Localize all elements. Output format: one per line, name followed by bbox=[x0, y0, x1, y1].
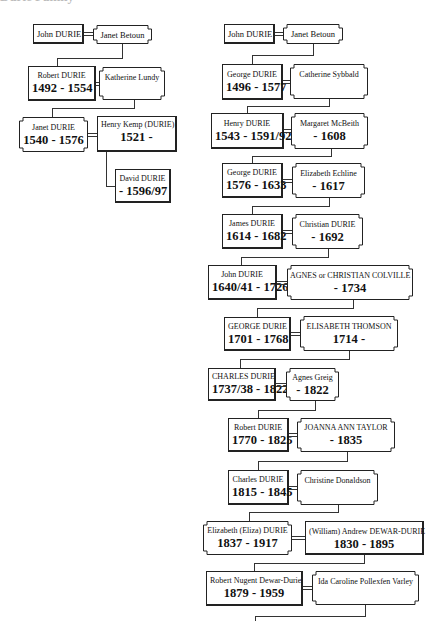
person-box-elizabeth-echline[interactable]: Elizabeth Echline- 1617 bbox=[292, 163, 365, 198]
person-box-agnes-greig[interactable]: Agnes Greig- 1822 bbox=[286, 368, 339, 401]
descent-line bbox=[249, 512, 250, 521]
person-box-elisabeth-thomson[interactable]: ELISABETH THOMSON1714 - bbox=[300, 316, 398, 351]
descent-line bbox=[252, 156, 332, 157]
person-box-catherine-sybbald[interactable]: Catherine Sybbald bbox=[290, 64, 368, 99]
person-name: Henry DURIE bbox=[215, 119, 279, 129]
marriage-connector bbox=[84, 32, 93, 36]
descent-line bbox=[331, 149, 332, 156]
descent-line bbox=[365, 605, 366, 616]
descent-line bbox=[240, 359, 241, 368]
person-name: JOANNA ANN TAYLOR bbox=[300, 423, 392, 433]
person-dates: - 1835 bbox=[300, 433, 392, 447]
descent-line bbox=[315, 401, 316, 410]
marriage-connector bbox=[291, 332, 300, 336]
descent-line bbox=[329, 198, 330, 206]
descent-line bbox=[241, 257, 329, 258]
person-box-george-durie-1701[interactable]: GEORGE DURIE1701 - 1768 bbox=[224, 317, 291, 351]
person-box-charles-durie-1737[interactable]: CHARLES DURIE1737/38 - 1822 bbox=[208, 368, 276, 401]
person-name: Agnes Greig bbox=[289, 373, 336, 383]
descent-line bbox=[252, 55, 253, 64]
person-dates: 1640/41 - 1726 bbox=[212, 280, 272, 294]
person-name: (William) Andrew DEWAR-DURIE bbox=[309, 527, 419, 537]
person-name: James DURIE bbox=[226, 219, 278, 229]
marriage-connector bbox=[283, 80, 290, 84]
descent-line bbox=[249, 512, 339, 513]
person-box-christine-donaldson[interactable]: Christine Donaldson bbox=[297, 470, 378, 505]
person-box-janet-durie-1540[interactable]: Janet DURIE1540 - 1576 bbox=[19, 117, 88, 152]
person-name: Margaret McBeith bbox=[294, 119, 365, 129]
person-dates: 1614 - 1682 bbox=[226, 229, 278, 243]
person-name: Robert DURIE bbox=[232, 423, 284, 433]
person-box-david-durie[interactable]: David DURIE- 1596/97 bbox=[115, 169, 171, 203]
person-dates: 1830 - 1895 bbox=[309, 537, 419, 551]
person-box-george-durie-1496[interactable]: George DURIE1496 - 1577 bbox=[222, 64, 283, 100]
person-name: Catherine Sybbald bbox=[293, 70, 365, 80]
person-box-george-durie-1576[interactable]: George DURIE1576 - 1633 bbox=[222, 163, 283, 198]
person-box-john-durie-right[interactable]: John DURIE bbox=[224, 24, 275, 44]
person-box-ida-caroline-pollexfen-varley[interactable]: Ida Caroline Pollexfen Varley bbox=[312, 571, 419, 605]
person-name: Elizabeth (Eliza) DURIE bbox=[206, 526, 289, 536]
person-box-janet-betoun-left[interactable]: Janet Betoun bbox=[93, 25, 152, 44]
descent-line bbox=[254, 563, 255, 571]
person-box-katherine-lundy[interactable]: Katherine Lundy bbox=[99, 67, 165, 100]
person-box-robert-durie-1492[interactable]: Robert DURIE1492 - 1554 bbox=[28, 66, 96, 101]
person-box-henry-kemp[interactable]: Henry Kemp (DURIE)1521 - bbox=[97, 116, 177, 152]
person-dates: - 1596/97 bbox=[119, 184, 166, 198]
person-name: Charles DURIE bbox=[232, 475, 284, 485]
person-box-james-durie[interactable]: James DURIE1614 - 1682 bbox=[222, 214, 283, 249]
person-box-robert-nugent-dewar-durie[interactable]: Robert Nugent Dewar-Durie1879 - 1959 bbox=[206, 571, 303, 606]
descent-line bbox=[364, 555, 365, 563]
marriage-connector bbox=[284, 129, 291, 133]
marriage-connector bbox=[283, 179, 292, 183]
person-name: Christine Donaldson bbox=[300, 476, 375, 486]
marriage-connector bbox=[289, 486, 297, 490]
person-box-henry-durie-1543[interactable]: Henry DURIE1543 - 1591/92 bbox=[211, 113, 284, 149]
descent-line bbox=[122, 44, 123, 58]
descent-line bbox=[258, 461, 348, 462]
person-name: ELISABETH THOMSON bbox=[303, 322, 395, 332]
descent-line bbox=[247, 106, 330, 107]
person-name: Robert DURIE bbox=[32, 71, 91, 81]
person-name: Christian DURIE bbox=[295, 220, 360, 230]
person-name: Henry Kemp (DURIE) bbox=[101, 120, 172, 130]
person-dates: - 1608 bbox=[294, 129, 365, 143]
descent-line bbox=[257, 308, 258, 317]
marriage-connector bbox=[292, 536, 305, 540]
person-name: David DURIE bbox=[119, 174, 166, 184]
descent-line bbox=[252, 206, 330, 207]
person-box-elizabeth-eliza-durie[interactable]: Elizabeth (Eliza) DURIE1837 - 1917 bbox=[203, 521, 292, 555]
person-dates: 1521 - bbox=[101, 130, 172, 144]
person-box-agnes-colville[interactable]: AGNES or CHRISTIAN COLVILLE- 1734 bbox=[287, 265, 413, 300]
person-box-christian-durie[interactable]: Christian DURIE- 1692 bbox=[292, 214, 363, 249]
person-dates: 1879 - 1959 bbox=[210, 586, 298, 600]
person-dates: 1540 - 1576 bbox=[22, 133, 85, 147]
person-dates: - 1692 bbox=[295, 230, 360, 244]
person-dates: - 1822 bbox=[289, 383, 336, 397]
descent-line bbox=[349, 351, 350, 359]
person-dates: - 1734 bbox=[290, 281, 410, 295]
descent-line bbox=[247, 106, 248, 113]
descent-line bbox=[258, 410, 316, 411]
person-box-william-andrew-dewar-durie[interactable]: (William) Andrew DEWAR-DURIE1830 - 1895 bbox=[305, 521, 424, 555]
person-name: George DURIE bbox=[226, 168, 278, 178]
person-box-charles-durie-1815[interactable]: Charles DURIE1815 - 1845 bbox=[228, 470, 289, 505]
descent-line bbox=[258, 410, 259, 418]
marriage-connector bbox=[289, 433, 297, 437]
person-box-janet-betoun-right[interactable]: Janet Betoun bbox=[283, 24, 343, 44]
person-box-margaret-mcbeith[interactable]: Margaret McBeith- 1608 bbox=[291, 113, 368, 149]
person-box-john-durie-1640[interactable]: John DURIE1640/41 - 1726 bbox=[208, 265, 277, 300]
person-box-joanna-ann-taylor[interactable]: JOANNA ANN TAYLOR- 1835 bbox=[297, 418, 395, 452]
person-dates: 1492 - 1554 bbox=[32, 81, 91, 95]
descent-line bbox=[52, 108, 53, 117]
descent-line bbox=[255, 616, 366, 617]
person-name: Robert Nugent Dewar-Durie bbox=[210, 576, 298, 586]
descent-line bbox=[106, 186, 115, 187]
person-box-john-durie-left[interactable]: John DURIE bbox=[33, 24, 84, 44]
descent-line bbox=[134, 100, 135, 108]
person-name: CHARLES DURIE bbox=[212, 372, 271, 382]
person-name: Katherine Lundy bbox=[102, 73, 162, 83]
person-dates: - 1617 bbox=[295, 179, 362, 193]
person-name: AGNES or CHRISTIAN COLVILLE bbox=[290, 271, 410, 281]
person-box-robert-durie-1770[interactable]: Robert DURIE1770 - 1825 bbox=[228, 418, 289, 452]
person-name: John DURIE bbox=[37, 29, 79, 39]
